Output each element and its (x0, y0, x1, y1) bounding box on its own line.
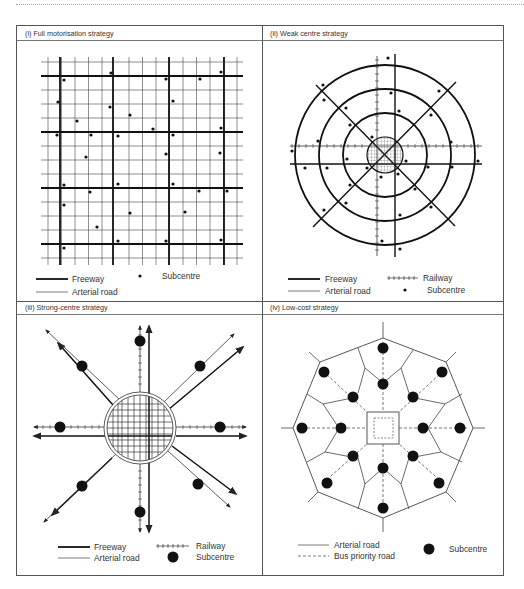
panel-ii-legend: Freeway Arterial road Railway Subcentre (288, 273, 466, 296)
legend-bus-priority-label: Bus priority road (334, 551, 395, 561)
subcentre-icon (138, 274, 141, 277)
legend-railway-label: Railway (196, 541, 226, 551)
panel-iv-title: (iv) Low-cost strategy (270, 303, 339, 312)
panel-iii-title: (iii) Strong-centre strategy (25, 303, 108, 312)
legend-freeway-label: Freeway (325, 274, 358, 284)
legend-arterial-label: Arterial road (325, 286, 371, 296)
legend-subcentre-label: Subcentre (162, 271, 201, 281)
panel-iii-network (34, 326, 246, 532)
legend-freeway-label: Freeway (72, 274, 105, 284)
railway-icon (156, 544, 189, 548)
legend-freeway-label: Freeway (94, 542, 127, 552)
legend-arterial-label: Arterial road (72, 287, 118, 297)
panel-i-legend: Freeway Arterial road Subcentre (36, 271, 201, 297)
legend-arterial-label: Arterial road (94, 553, 140, 563)
legend-subcentre-label: Subcentre (449, 544, 488, 554)
panel-ii-rings (290, 54, 482, 257)
legend-subcentre-label: Subcentre (196, 552, 235, 562)
panel-iii-legend: Freeway Arterial road Railway Subcentre (58, 541, 235, 563)
strategy-diagram: (i) Full motorisation strategy (ii) Weak… (0, 0, 524, 589)
panel-ii-title: (ii) Weak centre strategy (270, 29, 348, 38)
panel-i-grid (41, 57, 243, 265)
subcentre-icon (168, 552, 179, 563)
subcentre-icon (403, 288, 406, 291)
railway-icon (387, 276, 418, 280)
panel-i-title: (i) Full motorisation strategy (25, 29, 114, 38)
subcentre-icon (424, 544, 435, 555)
legend-subcentre-label: Subcentre (427, 285, 466, 295)
legend-arterial-label: Arterial road (334, 540, 380, 550)
legend-railway-label: Railway (423, 273, 453, 283)
panel-iv-legend: Arterial road Bus priority road Subcentr… (298, 540, 488, 561)
